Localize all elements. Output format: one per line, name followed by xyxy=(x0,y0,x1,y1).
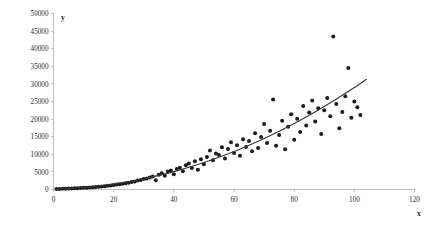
x-tick-label: 0 xyxy=(52,196,56,204)
x-tick-label: 100 xyxy=(349,196,360,204)
data-point xyxy=(295,117,299,121)
y-axis-tick-labels: 0500010000150002000025000300003500040000… xyxy=(31,10,49,194)
y-tick-label: 25000 xyxy=(31,98,49,106)
x-axis-tick-labels: 020406080100120 xyxy=(52,196,421,204)
data-point xyxy=(235,143,239,147)
data-point xyxy=(226,147,230,151)
data-point xyxy=(199,157,203,161)
y-tick-label: 15000 xyxy=(31,133,49,141)
data-point xyxy=(229,140,233,144)
chart-figure: 0500010000150002000025000300003500040000… xyxy=(0,0,438,228)
data-point xyxy=(331,34,335,38)
data-point xyxy=(277,133,281,137)
data-point xyxy=(220,145,224,149)
data-point xyxy=(349,116,353,120)
data-point xyxy=(205,155,209,159)
data-point xyxy=(322,108,326,112)
data-point xyxy=(238,154,242,158)
x-tick-label: 80 xyxy=(291,196,299,204)
data-point xyxy=(340,110,344,114)
y-tick-label: 35000 xyxy=(31,63,49,71)
data-point xyxy=(274,144,278,148)
data-point xyxy=(313,120,317,124)
data-point xyxy=(283,147,287,151)
data-point xyxy=(319,132,323,136)
data-point xyxy=(262,122,266,126)
data-point xyxy=(358,113,362,117)
y-tick-label: 20000 xyxy=(31,116,49,124)
data-point xyxy=(241,137,245,141)
data-point xyxy=(250,149,254,153)
x-axis: 020406080100120 xyxy=(52,190,421,204)
data-point xyxy=(187,161,191,165)
data-point xyxy=(280,119,284,123)
data-point xyxy=(298,130,302,134)
y-axis-title: y xyxy=(61,13,65,22)
data-point xyxy=(352,100,356,104)
y-tick-label: 45000 xyxy=(31,28,49,36)
data-point xyxy=(289,112,293,116)
y-tick-label: 50000 xyxy=(31,10,49,18)
data-point xyxy=(337,126,341,130)
data-point xyxy=(193,159,197,163)
y-axis: 0500010000150002000025000300003500040000… xyxy=(31,10,54,194)
y-tick-label: 40000 xyxy=(31,45,49,53)
x-axis-title: x xyxy=(417,209,421,218)
data-point xyxy=(256,146,260,150)
x-tick-label: 120 xyxy=(409,196,420,204)
data-point xyxy=(334,102,338,106)
data-point xyxy=(247,139,251,143)
data-point xyxy=(271,97,275,101)
x-tick-label: 60 xyxy=(230,196,238,204)
data-point xyxy=(355,105,359,109)
x-tick-label: 20 xyxy=(110,196,118,204)
data-point xyxy=(325,96,329,100)
data-point xyxy=(346,66,350,70)
data-point xyxy=(208,148,212,152)
data-point xyxy=(253,131,257,135)
y-tick-label: 30000 xyxy=(31,81,49,89)
data-point xyxy=(268,129,272,133)
y-tick-label: 0 xyxy=(45,186,49,194)
data-point xyxy=(328,114,332,118)
scatter-points xyxy=(55,34,363,191)
data-point xyxy=(310,98,314,102)
y-tick-label: 5000 xyxy=(34,169,49,177)
data-point xyxy=(259,135,263,139)
y-tick-label: 10000 xyxy=(31,151,49,159)
data-point xyxy=(172,172,176,176)
data-point xyxy=(292,138,296,142)
data-point xyxy=(154,178,158,182)
scatter-plot-svg: 0500010000150002000025000300003500040000… xyxy=(0,0,438,228)
data-point xyxy=(301,104,305,108)
data-point xyxy=(304,123,308,127)
data-point xyxy=(265,141,269,145)
x-tick-label: 40 xyxy=(170,196,178,204)
data-point xyxy=(223,157,227,161)
data-point xyxy=(196,168,200,172)
